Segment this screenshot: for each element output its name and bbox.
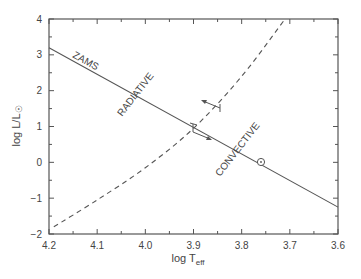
x-axis-label-sub: eff: [196, 258, 206, 267]
x-tick-label: 4.2: [42, 240, 56, 251]
y-axis-label-sub: ☉: [14, 105, 24, 113]
hr-diagram-chart: 4.24.14.03.93.83.73.6 −2−101234 ZAMS RAD…: [0, 0, 361, 279]
x-tick-label: 3.6: [331, 240, 345, 251]
x-tick-labels: 4.24.14.03.93.83.73.6: [42, 240, 345, 251]
y-tick-label: 0: [36, 157, 42, 168]
x-axis-label: log Teff: [171, 252, 205, 267]
x-axis-label-main: log T: [171, 252, 196, 264]
x-tick-label: 4.0: [138, 240, 152, 251]
zams-label: ZAMS: [71, 49, 101, 72]
y-axis-label: log L/L☉: [10, 105, 24, 146]
y-tick-label: −2: [31, 229, 43, 240]
radiative-label: RADIATIVE: [115, 70, 156, 118]
y-tick-label: 1: [36, 121, 42, 132]
y-tick-label: 4: [36, 14, 42, 25]
convective-label: CONVECTIVE: [213, 120, 262, 178]
x-tick-label: 4.1: [90, 240, 104, 251]
sun-marker: [257, 158, 264, 165]
y-tick-labels: −2−101234: [31, 14, 43, 240]
x-tick-label: 3.9: [187, 240, 201, 251]
y-tick-label: −1: [31, 193, 43, 204]
x-tick-label: 3.7: [283, 240, 297, 251]
y-tick-label: 3: [36, 49, 42, 60]
data-series: [49, 19, 338, 227]
x-tick-label: 3.8: [235, 240, 249, 251]
y-axis-label-main: log L/L: [10, 113, 22, 146]
y-tick-label: 2: [36, 85, 42, 96]
sun-symbol-dot: [260, 161, 262, 163]
